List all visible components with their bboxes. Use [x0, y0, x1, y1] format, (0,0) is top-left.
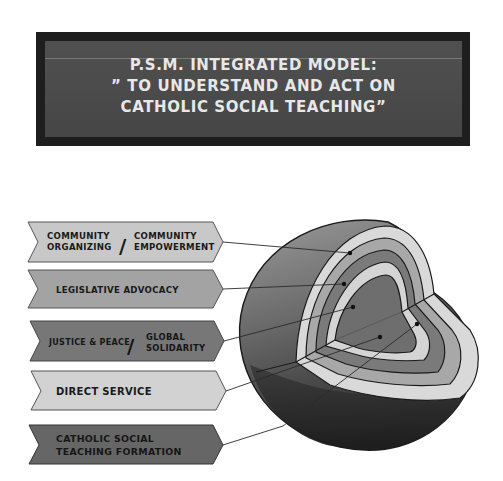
dot-direct-service [378, 335, 382, 339]
label-community-empowerment-2: EMPOWERMENT [134, 242, 215, 252]
label-cst-formation-2: TEACHING FORMATION [56, 446, 182, 457]
label-global-solidarity-1: GLOBAL [146, 332, 185, 342]
cutaway-sphere-icon [240, 220, 479, 450]
dot-legislative [342, 282, 346, 286]
label-legislative-advocacy: LEGISLATIVE ADVOCACY [56, 285, 179, 295]
layer-arrow-cst-formation: CATHOLIC SOCIAL TEACHING FORMATION [29, 425, 223, 464]
layer-arrow-community: COMMUNITY ORGANIZING / COMMUNITY EMPOWER… [28, 222, 223, 262]
dot-justice [351, 305, 355, 309]
dot-cst-formation [415, 322, 419, 326]
layer-arrow-direct-service: DIRECT SERVICE [31, 371, 226, 410]
label-global-solidarity-2: SOLIDARITY [146, 343, 206, 353]
model-diagram: COMMUNITY ORGANIZING / COMMUNITY EMPOWER… [0, 0, 503, 481]
layer-arrow-justice: JUSTICE & PEACE / GLOBAL SOLIDARITY [30, 321, 224, 361]
label-community-organizing-1: COMMUNITY [47, 231, 110, 241]
label-justice-peace: JUSTICE & PEACE [48, 338, 130, 347]
label-community-empowerment-1: COMMUNITY [134, 231, 197, 241]
layer-arrow-legislative: LEGISLATIVE ADVOCACY [28, 270, 223, 308]
dot-community [348, 251, 352, 255]
label-community-organizing-2: ORGANIZING [47, 242, 112, 252]
label-direct-service: DIRECT SERVICE [56, 386, 152, 397]
separator-slash: / [127, 334, 135, 358]
label-cst-formation-1: CATHOLIC SOCIAL [56, 433, 154, 444]
separator-slash: / [119, 234, 127, 258]
